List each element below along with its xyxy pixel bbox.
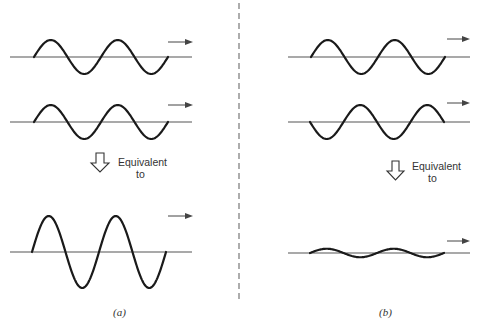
equivalent-label: Equivalent	[412, 160, 461, 172]
caption-b: (b)	[379, 306, 392, 319]
propagation-arrow-icon	[447, 36, 470, 42]
down-arrow-icon	[387, 161, 404, 180]
propagation-arrow-icon	[168, 39, 193, 45]
propagation-arrow-icon	[447, 238, 470, 244]
propagation-arrow-icon	[447, 100, 470, 106]
propagation-arrow-icon	[168, 213, 193, 219]
caption-a: (a)	[113, 306, 126, 319]
down-arrow-icon	[91, 153, 109, 172]
to-label: to	[428, 172, 437, 184]
to-label: to	[136, 168, 145, 180]
propagation-arrow-icon	[168, 102, 193, 108]
interference-diagram: Equivalent to (a) Equivalent to	[0, 0, 477, 324]
equivalent-label: Equivalent	[118, 156, 167, 168]
panel-b: Equivalent to (b)	[288, 36, 470, 319]
panel-a: Equivalent to (a)	[10, 39, 193, 319]
